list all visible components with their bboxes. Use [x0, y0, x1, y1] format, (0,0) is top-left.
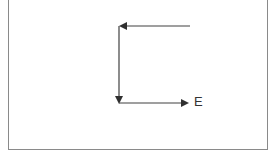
arrow-diagram — [0, 0, 271, 154]
arrow-right-icon — [181, 99, 189, 107]
arrow-left-icon — [119, 22, 127, 30]
label-e: E — [194, 94, 203, 109]
